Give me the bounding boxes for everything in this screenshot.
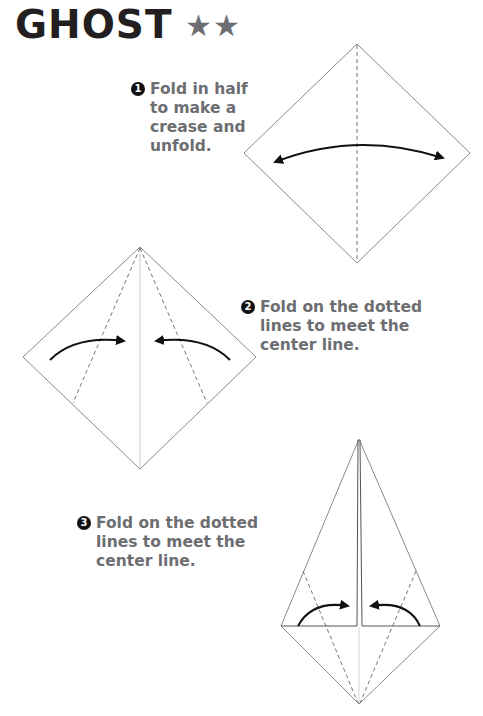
step-1-diagram [244,44,470,263]
fold-diagrams [0,0,483,716]
step-3-diagram [281,439,440,704]
step-2-diagram [23,247,256,469]
